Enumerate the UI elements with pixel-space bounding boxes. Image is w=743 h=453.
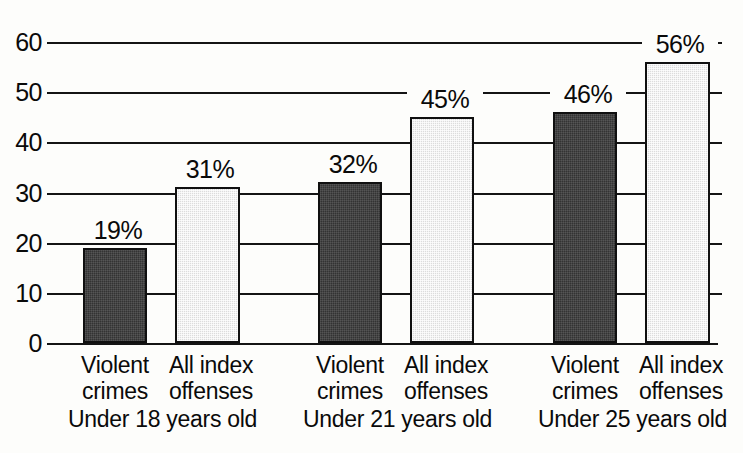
bar-under-21-violent-crimes <box>318 182 382 343</box>
category-label-line2: offenses <box>387 378 505 404</box>
bar-under-21-all-index-offenses <box>410 117 474 343</box>
y-tick-label-50: 50 <box>0 80 42 105</box>
category-label-under-18-all-index-offenses: All index offenses <box>152 352 270 404</box>
gridline-40 <box>47 142 718 144</box>
value-label-under-25-violent-crimes: 46% <box>550 82 626 107</box>
gridline-60 <box>47 42 718 44</box>
value-label-under-25-all-index-offenses: 56% <box>642 32 718 57</box>
category-label-under-21-all-index-offenses: All index offenses <box>387 352 505 404</box>
tick-stub-right-10 <box>710 293 722 295</box>
value-label-under-21-violent-crimes: 32% <box>315 152 391 177</box>
group-label-under-21: Under 21 years old <box>290 406 505 432</box>
y-tick-label-30: 30 <box>0 181 42 206</box>
tick-stub-right-20 <box>710 243 722 245</box>
tick-stub-right-30 <box>710 193 722 195</box>
axis-baseline <box>47 343 718 345</box>
value-label-under-21-all-index-offenses: 45% <box>407 87 483 112</box>
gridline-10 <box>47 293 718 295</box>
category-label-line2: offenses <box>152 378 270 404</box>
tick-stub-right-50 <box>710 92 722 94</box>
value-label-under-18-all-index-offenses: 31% <box>172 157 248 182</box>
gridline-30 <box>47 193 718 195</box>
group-label-under-18: Under 18 years old <box>55 406 270 432</box>
group-label-under-25: Under 25 years old <box>525 406 740 432</box>
category-label-line1: All index <box>622 352 740 378</box>
category-label-under-25-all-index-offenses: All index offenses <box>622 352 740 404</box>
bar-chart: 60 50 40 30 20 10 0 19% 31% 32% 45% 46% … <box>0 0 743 453</box>
bar-under-25-all-index-offenses <box>645 62 710 343</box>
value-label-under-18-violent-crimes: 19% <box>80 218 156 243</box>
y-tick-label-0: 0 <box>0 331 42 356</box>
bar-under-25-violent-crimes <box>553 112 617 343</box>
y-tick-label-20: 20 <box>0 231 42 256</box>
y-tick-label-60: 60 <box>0 30 42 55</box>
tick-stub-right-40 <box>710 142 722 144</box>
gridline-20 <box>47 243 718 245</box>
category-label-line2: offenses <box>622 378 740 404</box>
y-tick-label-40: 40 <box>0 130 42 155</box>
category-label-line1: All index <box>152 352 270 378</box>
category-label-line1: All index <box>387 352 505 378</box>
y-tick-label-10: 10 <box>0 281 42 306</box>
bar-under-18-all-index-offenses <box>175 187 240 343</box>
bar-under-18-violent-crimes <box>83 248 147 343</box>
